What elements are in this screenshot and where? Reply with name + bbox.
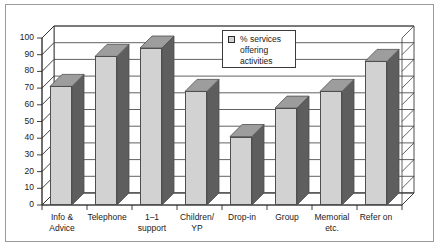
chart-legend[interactable]: % services offering activities: [222, 30, 296, 68]
x-tick-label-line: Refer on: [351, 212, 401, 223]
x-tick-label-children-yp: Children/ YP: [172, 212, 222, 234]
bar-drop-in[interactable]: [230, 137, 252, 206]
x-tick-label-1-1-support: 1–1 support: [127, 212, 177, 234]
x-tick-label-refer-on: Refer on: [351, 212, 401, 223]
x-tick-label-line: Telephone: [80, 212, 134, 223]
bar-info-advice[interactable]: [50, 86, 72, 205]
bar-children-yp[interactable]: [185, 91, 207, 205]
x-tick-label-line: Drop-in: [217, 212, 267, 223]
y-tick-label: 80: [10, 66, 34, 75]
bar-memorial-etc[interactable]: [320, 91, 342, 205]
bar-1-1-support[interactable]: [140, 48, 162, 205]
chart-figure: 100 90 80 70 60 50 40 30 20 10 0: [0, 0, 439, 247]
bar-telephone[interactable]: [95, 56, 117, 205]
y-tick-label: 90: [10, 50, 34, 59]
y-tick-label: 40: [10, 133, 34, 142]
y-tick-label: 60: [10, 100, 34, 109]
y-tick-label: 50: [10, 117, 34, 126]
y-tick-label: 70: [10, 83, 34, 92]
legend-label: % services offering activities: [240, 34, 296, 67]
x-tick-label-line: Advice: [37, 223, 87, 234]
x-tick-label-line: etc.: [305, 223, 359, 234]
legend-label-line: offering: [240, 45, 296, 56]
bar-group[interactable]: [275, 108, 297, 205]
y-tick-label: 30: [10, 150, 34, 159]
y-tick-label: 10: [10, 183, 34, 192]
x-tick-label-line: 1–1: [127, 212, 177, 223]
bar-refer-on[interactable]: [365, 61, 387, 205]
y-tick-label: 100: [10, 33, 34, 42]
x-tick-label-drop-in: Drop-in: [217, 212, 267, 223]
legend-swatch-icon: [228, 36, 235, 43]
y-tick-label: 20: [10, 167, 34, 176]
y-tick-label: 0: [10, 200, 34, 209]
x-tick-label-line: YP: [172, 223, 222, 234]
x-tick-label-line: Children/: [172, 212, 222, 223]
legend-label-line: % services: [240, 34, 296, 45]
x-tick-label-telephone: Telephone: [80, 212, 134, 223]
x-tick-label-line: support: [127, 223, 177, 234]
legend-label-line: activities: [240, 56, 296, 67]
